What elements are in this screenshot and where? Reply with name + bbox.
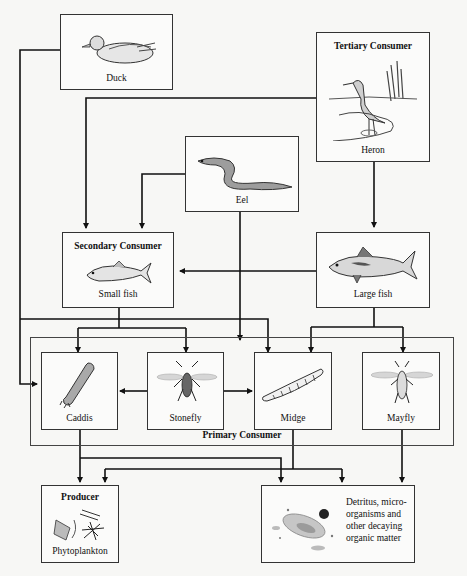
node-duck: Duck <box>60 14 173 90</box>
large-fish-icon <box>327 247 419 285</box>
node-midge: Midge <box>254 352 332 430</box>
food-web-diagram: Duck Tertiary Consumer Heron Eel Seconda… <box>0 0 467 576</box>
eel-label: Eel <box>186 195 298 205</box>
midge-label: Midge <box>255 413 331 423</box>
detritus-icon <box>268 496 338 556</box>
mayfly-label: Mayfly <box>363 413 439 423</box>
secondary-consumer-title: Secondary Consumer <box>63 241 173 251</box>
node-small-fish: Secondary Consumer Small fish <box>62 232 174 308</box>
caddis-label: Caddis <box>42 413 117 423</box>
node-eel: Eel <box>185 136 299 212</box>
node-detritus: Detritus, micro- organisms and other dec… <box>261 485 415 563</box>
stonefly-icon <box>156 359 218 409</box>
large-fish-label: Large fish <box>317 289 429 299</box>
node-stonefly: Stonefly <box>147 352 224 430</box>
node-caddis: Caddis <box>41 352 118 430</box>
edge-eel-smallfish <box>142 174 185 228</box>
detritus-label: Detritus, micro- organisms and other dec… <box>346 496 421 544</box>
node-phytoplankton: Producer Phytoplankton <box>41 485 119 563</box>
stonefly-label: Stonefly <box>148 413 223 423</box>
duck-icon <box>79 29 157 69</box>
phytoplankton-label: Phytoplankton <box>42 546 118 556</box>
tertiary-consumer-title: Tertiary Consumer <box>317 41 429 51</box>
edge-caddis-detritus <box>80 458 281 482</box>
eel-icon <box>194 153 294 193</box>
heron-icon <box>329 59 419 141</box>
heron-label: Heron <box>317 145 429 155</box>
small-fish-icon <box>85 259 153 287</box>
midge-icon <box>261 363 327 403</box>
phytoplankton-icon <box>52 506 110 544</box>
small-fish-label: Small fish <box>63 289 173 299</box>
producer-title: Producer <box>42 492 118 502</box>
mayfly-icon <box>371 359 433 409</box>
duck-label: Duck <box>61 73 172 83</box>
node-large-fish: Large fish <box>316 232 430 308</box>
edge-duck-caddis <box>20 50 60 384</box>
caddis-icon <box>58 361 102 409</box>
primary-consumer-title: Primary Consumer <box>31 430 453 440</box>
node-mayfly: Mayfly <box>362 352 440 430</box>
node-heron: Tertiary Consumer Heron <box>316 32 430 162</box>
